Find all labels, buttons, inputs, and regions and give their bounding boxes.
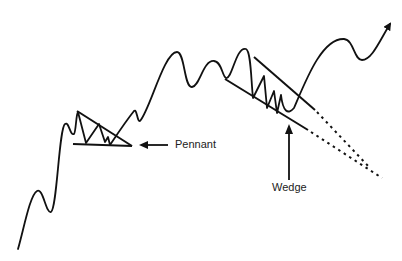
wedge-label: Wedge xyxy=(272,181,307,193)
wedge-arrow-icon xyxy=(285,124,293,180)
pennant-lower-trendline xyxy=(73,144,132,146)
wedge xyxy=(225,57,382,178)
pennant-arrow-icon xyxy=(139,141,168,149)
price-line xyxy=(18,24,390,249)
wedge-lower-extension xyxy=(311,132,382,178)
pattern-diagram: Pennant Wedge xyxy=(0,0,402,261)
wedge-upper-extension xyxy=(317,112,370,168)
pennant-label: Pennant xyxy=(175,138,216,150)
diagram-canvas xyxy=(0,0,402,261)
